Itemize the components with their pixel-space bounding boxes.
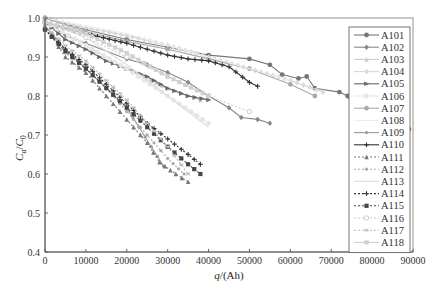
x-tick-label: 40000	[196, 255, 221, 266]
x-tick-label: 60000	[278, 255, 303, 266]
legend: A101A102A103A104A105A106A107A108A109A110…	[349, 27, 410, 253]
legend-label: A108	[381, 115, 404, 126]
x-tick-label: 30000	[155, 255, 180, 266]
legend-label: A118	[381, 237, 404, 248]
x-tick-label: 80000	[360, 255, 385, 266]
x-tick-label: 90000	[401, 255, 426, 266]
legend-label: A111	[381, 152, 404, 163]
y-tick-label: 0.4	[28, 247, 41, 258]
legend-label: A106	[381, 91, 404, 102]
legend-label: A113	[381, 176, 404, 187]
y-tick-label: 0.8	[28, 91, 41, 102]
x-tick-label: 50000	[237, 255, 262, 266]
svg-text:q/(Ah): q/(Ah)	[214, 269, 244, 282]
legend-label: A109	[381, 127, 404, 138]
legend-label: A117	[381, 225, 404, 236]
legend-label: A103	[381, 54, 404, 65]
legend-label: A105	[381, 78, 404, 89]
legend-label: A102	[381, 42, 404, 53]
legend-label: A101	[381, 30, 404, 41]
x-tick-label: 70000	[319, 255, 344, 266]
series-a102	[43, 19, 272, 126]
y-axis-label: Ca/C0	[13, 135, 28, 161]
x-tick-label: 20000	[114, 255, 139, 266]
x-tick-label: 0	[43, 255, 48, 266]
legend-label: A112	[381, 164, 404, 175]
y-tick-label: 0.7	[28, 130, 41, 141]
legend-label: A116	[381, 213, 404, 224]
svg-text:Ca/C0: Ca/C0	[13, 135, 28, 161]
y-tick-label: 1.0	[28, 13, 41, 24]
x-tick-label: 10000	[73, 255, 98, 266]
chart: 0.40.50.60.70.80.91.00100002000030000400…	[0, 0, 433, 288]
legend-label: A115	[381, 200, 404, 211]
y-tick-label: 0.6	[28, 169, 41, 180]
series-a103	[43, 20, 203, 103]
y-tick-label: 0.5	[28, 208, 41, 219]
legend-label: A110	[381, 139, 404, 150]
legend-label: A107	[381, 103, 404, 114]
x-axis-label: q/(Ah)	[214, 269, 244, 282]
y-tick-label: 0.9	[28, 52, 41, 63]
legend-label: A104	[381, 66, 405, 77]
legend-label: A114	[381, 188, 405, 199]
